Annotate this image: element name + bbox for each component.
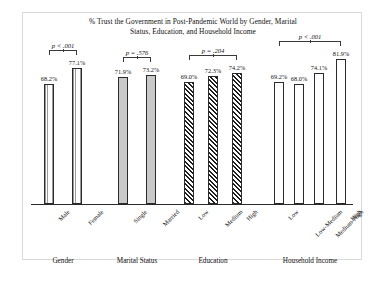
p-value-label: p = .204	[178, 47, 248, 54]
bar-value-label: 74.2%	[220, 64, 254, 71]
x-tick-label: Medium	[223, 208, 243, 228]
x-tick-label: High	[245, 208, 259, 222]
bar-value-label: 69.0%	[172, 73, 206, 80]
x-tick-label: High	[349, 208, 363, 222]
p-value-label: p < .001	[28, 42, 98, 49]
x-axis-line	[31, 204, 353, 205]
group-label-household-income: Household Income	[265, 257, 355, 265]
bar-household-income-low-medium	[294, 84, 304, 204]
bar-education-high	[232, 73, 242, 204]
chart-figure: % Trust the Government in Post-Pandemic …	[22, 12, 362, 260]
group-label-education: Education	[168, 257, 258, 265]
x-tick-label: Female	[87, 208, 105, 226]
bar-value-label: 74.1%	[302, 64, 336, 71]
bar-value-label: 68.0%	[282, 75, 316, 82]
significance-bracket	[189, 55, 237, 60]
significance-bracket	[123, 57, 151, 62]
bar-household-income-high	[336, 59, 346, 204]
x-tick-label: Single	[132, 208, 149, 225]
chart-title-line-2: Status, Education, and Household Income	[130, 27, 256, 36]
x-tick-label: Male	[57, 208, 71, 222]
bar-education-medium	[208, 76, 218, 204]
x-tick-label: Low	[286, 208, 299, 221]
p-value-label: p = .576	[102, 49, 172, 56]
significance-bracket	[49, 50, 77, 55]
significance-bracket	[279, 41, 341, 46]
bar-value-label: 73.2%	[134, 66, 168, 73]
bar-household-income-low	[274, 82, 284, 204]
bar-household-income-medium-high	[314, 73, 324, 204]
plot-area: 68.2%Male77.1%Femalep < .001Gender71.9%S…	[31, 39, 353, 205]
bar-gender-male	[44, 84, 54, 204]
chart-title-line-1: % Trust the Government in Post-Pandemic …	[89, 17, 297, 26]
p-value-label: p < .001	[275, 33, 345, 40]
x-tick-label: Low	[196, 208, 209, 221]
bar-marital-status-single	[118, 77, 128, 204]
bar-value-label: 68.2%	[32, 75, 66, 82]
bar-education-low	[184, 82, 194, 204]
bar-gender-female	[72, 68, 82, 204]
bar-value-label: 77.1%	[60, 59, 94, 66]
bar-marital-status-married	[146, 75, 156, 204]
x-tick-label: Married	[161, 208, 181, 228]
bar-value-label: 81.9%	[324, 50, 358, 57]
